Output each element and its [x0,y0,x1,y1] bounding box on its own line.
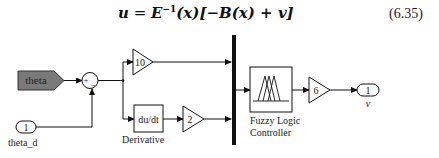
gain-d-value: 2 [188,114,193,125]
fuzzy-label-line2: Controller [250,127,292,138]
gain-block-6[interactable]: 6 [309,77,330,103]
outport-number: 1 [366,85,371,96]
signal-to-derivative [123,81,134,120]
from-tag-label: theta [25,74,46,86]
gain-p-value: 10 [135,57,145,68]
fuzzy-label-line1: Fuzzy Logic [250,115,301,126]
gain-out-value: 6 [314,85,319,96]
gain-block-10[interactable]: 10 [133,49,153,75]
derivative-block[interactable]: du/dt Derivative [122,105,165,145]
signal-theta-d [36,89,92,127]
sum-minus: − [90,80,95,90]
from-tag-theta[interactable]: theta [18,71,64,90]
inport-label: theta_d [8,137,37,148]
inport-theta-d[interactable]: 1 theta_d [8,121,37,148]
simulink-diagram: theta + − 1 theta_d 10 du/dt Derivative … [0,0,439,158]
fuzzy-logic-controller-block[interactable]: Fuzzy Logic Controller [250,67,301,138]
sum-plus: + [83,75,88,85]
derivative-text: du/dt [138,114,159,125]
outport-v[interactable]: 1 v [357,84,379,109]
mux-block[interactable] [232,35,236,145]
derivative-label: Derivative [122,134,165,145]
sum-block[interactable]: + − [82,73,98,91]
inport-number: 1 [24,122,29,133]
signal-to-gain-p [123,62,133,81]
outport-label: v [366,98,371,109]
gain-block-2[interactable]: 2 [183,106,204,132]
